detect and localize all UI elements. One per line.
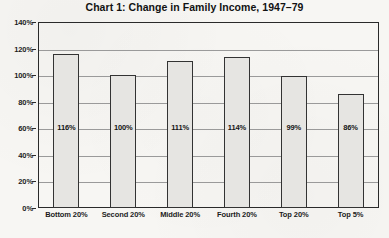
x-axis-tick-label: Middle 20% bbox=[152, 210, 209, 219]
y-axis-tick-label: 100% bbox=[14, 71, 33, 80]
x-axis-tick-label: Top 20% bbox=[265, 210, 322, 219]
gridline bbox=[39, 103, 378, 104]
x-axis: Bottom 20%Second 20%Middle 20%Fourth 20%… bbox=[38, 210, 379, 226]
y-axis-tick-mark bbox=[32, 22, 36, 23]
y-axis-tick-label: 120% bbox=[14, 44, 33, 53]
y-axis-tick-label: 80% bbox=[18, 97, 33, 106]
x-axis-tick-label: Second 20% bbox=[95, 210, 152, 219]
gridline bbox=[39, 129, 378, 130]
y-axis-tick-label: 60% bbox=[18, 124, 33, 133]
chart-title: Chart 1: Change in Family Income, 1947–7… bbox=[0, 1, 389, 13]
gridline bbox=[39, 76, 378, 77]
y-axis-tick-label: 140% bbox=[14, 18, 33, 27]
x-axis-tick-label: Fourth 20% bbox=[209, 210, 266, 219]
y-axis-tick-label: 40% bbox=[18, 150, 33, 159]
gridline bbox=[39, 50, 378, 51]
y-axis: 0%20%40%60%80%100%120%140% bbox=[0, 22, 36, 208]
y-axis-tick-mark bbox=[32, 128, 36, 129]
y-axis-tick-mark bbox=[32, 181, 36, 182]
y-axis-tick-mark bbox=[32, 49, 36, 50]
gridline bbox=[39, 156, 378, 157]
chart-container: Chart 1: Change in Family Income, 1947–7… bbox=[0, 0, 389, 238]
plot-area bbox=[38, 22, 379, 208]
x-axis-tick-label: Bottom 20% bbox=[38, 210, 95, 219]
gridline bbox=[39, 182, 378, 183]
y-axis-tick-mark bbox=[32, 102, 36, 103]
y-axis-tick-label: 20% bbox=[18, 177, 33, 186]
y-axis-tick-mark bbox=[32, 75, 36, 76]
y-axis-tick-mark bbox=[32, 155, 36, 156]
y-axis-tick-mark bbox=[32, 208, 36, 209]
x-axis-tick-label: Top 5% bbox=[322, 210, 379, 219]
